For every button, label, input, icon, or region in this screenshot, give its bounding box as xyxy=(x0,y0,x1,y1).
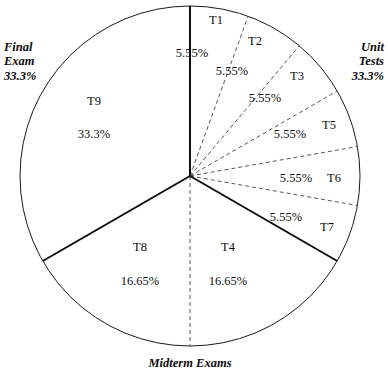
slice-percent-t2: 5.55% xyxy=(216,65,248,79)
slice-label-t5: T5 xyxy=(322,119,336,133)
group-label-final-exam: FinalExam33.3% xyxy=(4,40,36,83)
slice-label-t3: T3 xyxy=(290,70,304,84)
pie-chart-figure: T15.55%T25.55%T35.55%T55.55%T65.55%T75.5… xyxy=(0,0,388,375)
slice-percent-t4: 16.65% xyxy=(209,275,248,289)
slice-label-t2: T2 xyxy=(248,35,262,49)
slice-label-t4: T4 xyxy=(221,241,235,255)
slice-label-t6: T6 xyxy=(327,172,341,186)
slice-label-t1: T1 xyxy=(209,14,223,28)
slice-label-t9: T9 xyxy=(87,95,101,109)
slice-label-t8: T8 xyxy=(133,241,147,255)
slice-percent-t9: 33.3% xyxy=(78,128,110,142)
slice-label-t7: T7 xyxy=(320,221,334,235)
slice-percent-t8: 16.65% xyxy=(121,275,160,289)
slice-percent-t6: 5.55% xyxy=(280,172,312,186)
slice-percent-t7: 5.55% xyxy=(270,211,302,225)
slice-percent-t3: 5.55% xyxy=(249,92,281,106)
slice-percent-t1: 5.55% xyxy=(176,47,208,61)
group-label-midterm-exams: Midterm Exams xyxy=(149,356,232,370)
group-label-unit-tests: UnitTests33.3% xyxy=(352,40,384,83)
slice-percent-t5: 5.55% xyxy=(274,128,306,142)
